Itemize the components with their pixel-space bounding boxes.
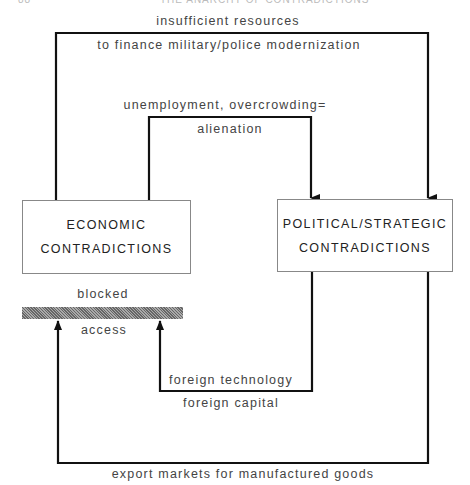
political-strategic-contradictions-box: POLITICAL/STRATEGIC CONTRADICTIONS: [277, 199, 453, 272]
barrier-label-below: access: [81, 323, 127, 337]
economic-box-line2: CONTRADICTIONS: [40, 237, 172, 261]
inner-bottom-label-above: foreign technology: [169, 373, 293, 387]
outer-bottom-label: export markets for manufactured goods: [112, 467, 375, 481]
inner-bottom-label-below: foreign capital: [183, 396, 279, 410]
blocked-access-barrier: [22, 307, 183, 319]
inner-top-label-above: unemployment, overcrowding=: [124, 98, 327, 112]
political-box-line2: CONTRADICTIONS: [299, 236, 431, 260]
economic-box-line1: ECONOMIC: [67, 213, 147, 237]
economic-contradictions-box: ECONOMIC CONTRADICTIONS: [22, 200, 191, 274]
inner-top-label-below: alienation: [197, 122, 263, 136]
outer-top-label-below: to finance military/police modernization: [97, 38, 360, 52]
outer-top-label-above: insufficient resources: [156, 14, 300, 28]
barrier-label-above: blocked: [77, 287, 129, 301]
diagram-canvas: 88 THE ANARCHY OF CONTRADICTIONS ECONOMI…: [0, 0, 470, 485]
political-box-line1: POLITICAL/STRATEGIC: [283, 212, 448, 236]
